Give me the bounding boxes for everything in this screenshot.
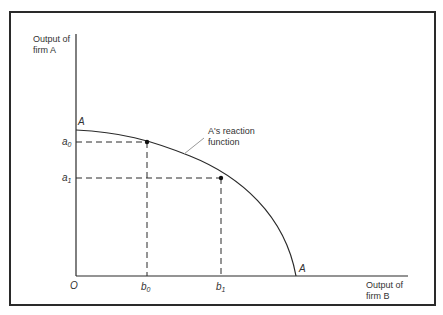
equilibrium-point-1 <box>219 176 223 180</box>
tick-b1: b1 <box>216 281 225 295</box>
y-axis-label: Output of firm A <box>33 34 70 56</box>
x-axis-label-line2: firm B <box>366 291 403 302</box>
x-axis-label: Output of firm B <box>366 280 403 302</box>
origin-label: O <box>70 280 78 291</box>
tick-a1: a1 <box>62 172 71 186</box>
curve-annotation-line1: A's reaction <box>208 126 255 137</box>
curve-annotation-line2: function <box>208 137 255 148</box>
curve-label-top: A <box>78 116 85 127</box>
y-axis-label-line1: Output of <box>33 34 70 45</box>
tick-a1-sub: 1 <box>68 177 72 184</box>
annotation-leader <box>184 138 204 154</box>
tick-b0-sub: 0 <box>147 286 151 293</box>
tick-b1-sub: 1 <box>222 286 226 293</box>
tick-a0-sub: 0 <box>68 141 72 148</box>
curve-annotation: A's reaction function <box>208 126 255 148</box>
tick-a0: a0 <box>62 136 71 150</box>
x-axis-label-line1: Output of <box>366 280 403 291</box>
tick-b0: b0 <box>141 281 150 295</box>
curve-label-bottom: A <box>299 263 306 274</box>
equilibrium-point-0 <box>145 140 149 144</box>
y-axis-label-line2: firm A <box>33 45 70 56</box>
